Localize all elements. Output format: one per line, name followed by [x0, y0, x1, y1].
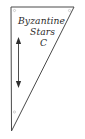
diagram-title-line-3: C — [40, 38, 47, 47]
diagram-title-line-1: Byzantine — [18, 16, 65, 25]
diagram-title-line-2: Stars — [30, 27, 55, 36]
diagram-canvas: Byzantine Stars C — [0, 0, 85, 139]
